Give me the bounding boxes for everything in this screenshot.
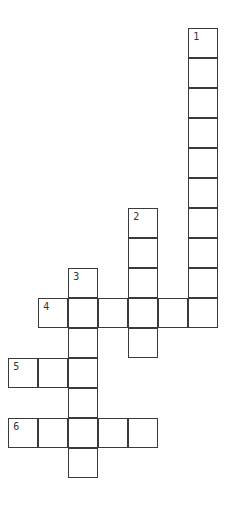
crossword-cell[interactable] [188,148,218,178]
cell-input[interactable] [69,269,97,297]
crossword-cell[interactable] [68,358,98,388]
crossword-cell[interactable] [188,298,218,328]
cell-input[interactable] [189,269,217,297]
crossword-cell[interactable] [188,58,218,88]
cell-input[interactable] [9,359,37,387]
cell-input[interactable] [39,359,67,387]
cell-input[interactable] [129,419,157,447]
cell-input[interactable] [189,29,217,57]
cell-input[interactable] [69,419,97,447]
crossword-cell[interactable]: 2 [128,208,158,238]
cell-input[interactable] [39,299,67,327]
crossword-cell[interactable] [188,268,218,298]
crossword-cell[interactable] [68,388,98,418]
crossword-cell[interactable] [68,418,98,448]
cell-input[interactable] [189,179,217,207]
cell-input[interactable] [129,209,157,237]
crossword-cell[interactable] [188,88,218,118]
crossword-cell[interactable]: 4 [38,298,68,328]
crossword-cell[interactable] [98,298,128,328]
crossword-cell[interactable] [188,118,218,148]
cell-input[interactable] [39,419,67,447]
cell-input[interactable] [189,149,217,177]
crossword-cell[interactable]: 5 [8,358,38,388]
crossword-cell[interactable] [128,238,158,268]
crossword-cell[interactable]: 6 [8,418,38,448]
cell-input[interactable] [69,299,97,327]
crossword-cell[interactable] [128,298,158,328]
crossword-cell[interactable]: 3 [68,268,98,298]
crossword-cell[interactable] [188,208,218,238]
crossword-cell[interactable] [68,448,98,478]
cell-input[interactable] [9,419,37,447]
cell-input[interactable] [189,59,217,87]
cell-input[interactable] [189,299,217,327]
cell-input[interactable] [189,119,217,147]
cell-input[interactable] [129,269,157,297]
crossword-cell[interactable] [158,298,188,328]
cell-input[interactable] [129,299,157,327]
crossword-cell[interactable]: 1 [188,28,218,58]
cell-input[interactable] [189,239,217,267]
cell-input[interactable] [69,449,97,477]
crossword-cell[interactable] [38,418,68,448]
cell-input[interactable] [99,299,127,327]
cell-input[interactable] [129,239,157,267]
crossword-cell[interactable] [128,418,158,448]
cell-input[interactable] [99,419,127,447]
crossword-grid: 123456 [0,0,235,510]
crossword-cell[interactable] [38,358,68,388]
crossword-cell[interactable] [98,418,128,448]
crossword-cell[interactable] [188,178,218,208]
cell-input[interactable] [189,209,217,237]
crossword-cell[interactable] [128,328,158,358]
cell-input[interactable] [69,329,97,357]
cell-input[interactable] [159,299,187,327]
crossword-cell[interactable] [188,238,218,268]
cell-input[interactable] [69,359,97,387]
crossword-cell[interactable] [68,328,98,358]
crossword-cell[interactable] [68,298,98,328]
crossword-cell[interactable] [128,268,158,298]
cell-input[interactable] [129,329,157,357]
cell-input[interactable] [69,389,97,417]
cell-input[interactable] [189,89,217,117]
